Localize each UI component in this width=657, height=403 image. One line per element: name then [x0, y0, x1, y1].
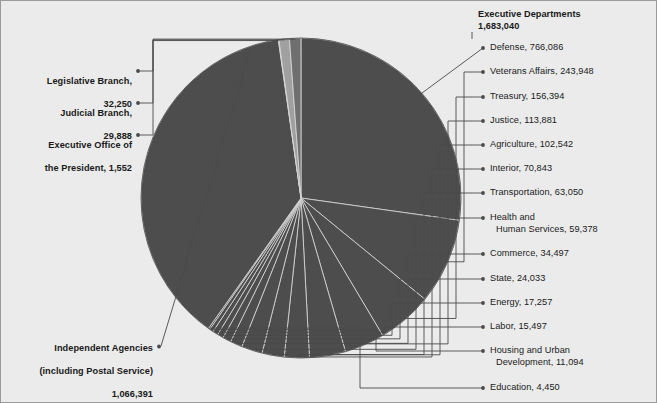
- callout-label-line2: the President, 1,552: [1, 163, 132, 175]
- group-value-executive-departments: 1,683,040: [478, 21, 519, 33]
- leader-dot: [481, 216, 485, 220]
- callout-label-interior: Interior, 70,843: [490, 163, 552, 175]
- callout-label-line1: Treasury, 156,394: [490, 91, 564, 103]
- callout-label-line1: Commerce, 34,497: [490, 248, 569, 260]
- callout-label-line1: Independent Agencies: [1, 343, 153, 355]
- callout-label-line1: Executive Office of: [1, 140, 132, 152]
- callout-label-line1: Health and: [490, 212, 598, 224]
- group-title-executive-departments: Executive Departments: [478, 9, 581, 21]
- callout-label-executive-office: Executive Office of the President, 1,552: [1, 128, 132, 186]
- leader-dot: [481, 191, 485, 195]
- group-value-text: 1,683,040: [478, 21, 519, 31]
- callout-label-line1: Labor, 15,497: [490, 321, 547, 333]
- callout-label-line1: Justice, 113,881: [490, 115, 557, 127]
- callout-label-line1: Education, 4,450: [490, 382, 560, 394]
- callout-label-line2: Development, 11,094: [490, 357, 584, 369]
- leader-dot: [136, 133, 140, 137]
- callout-label-hhs: Health andHuman Services, 59,378: [490, 212, 598, 235]
- callout-label-line1: Agriculture, 102,542: [490, 139, 573, 151]
- callout-label-line1: Veterans Affairs, 243,948: [490, 66, 594, 78]
- callout-label-transportation: Transportation, 63,050: [490, 187, 583, 199]
- leader-dot: [481, 46, 485, 50]
- callout-label-line1: Transportation, 63,050: [490, 187, 583, 199]
- callout-label-line1: Housing and Urban: [490, 345, 584, 357]
- callout-label-commerce: Commerce, 34,497: [490, 248, 569, 260]
- pie-slices-group: [141, 38, 461, 358]
- callout-label-line1: Energy, 17,257: [490, 297, 552, 309]
- callout-label-labor: Labor, 15,497: [490, 321, 547, 333]
- leader-dot: [157, 345, 161, 349]
- leader-dot: [481, 386, 485, 390]
- callout-label-energy: Energy, 17,257: [490, 297, 552, 309]
- callout-label-veterans: Veterans Affairs, 243,948: [490, 66, 594, 78]
- callout-label-line1: Judicial Branch,: [1, 108, 132, 120]
- leader-dot: [136, 101, 140, 105]
- callout-label-line1: Interior, 70,843: [490, 163, 552, 175]
- callout-label-justice: Justice, 113,881: [490, 115, 557, 127]
- callout-label-line3: 1,066,391: [1, 389, 153, 401]
- callout-label-defense: Defense, 766,086: [490, 42, 563, 54]
- callout-label-treasury: Treasury, 156,394: [490, 91, 564, 103]
- leader-dot: [481, 143, 485, 147]
- leader-dot: [481, 95, 485, 99]
- callout-label-line2: (including Postal Service): [1, 366, 153, 378]
- callout-label-hud: Housing and UrbanDevelopment, 11,094: [490, 345, 584, 368]
- pie-chart-figure: Executive Departments 1,683,040 Legislat…: [0, 0, 657, 403]
- group-title-text: Executive Departments: [478, 9, 581, 19]
- callout-label-education: Education, 4,450: [490, 382, 560, 394]
- callout-label-line1: Defense, 766,086: [490, 42, 563, 54]
- callout-label-line2: Human Services, 59,378: [490, 224, 598, 236]
- leader-dot: [481, 301, 485, 305]
- callout-label-line1: State, 24,033: [490, 273, 545, 285]
- leader-line-defense: [421, 48, 483, 94]
- leader-dot: [481, 252, 485, 256]
- callout-label-agriculture: Agriculture, 102,542: [490, 139, 573, 151]
- callout-label-independent-agencies: Independent Agencies (including Postal S…: [1, 331, 153, 403]
- leader-dot: [136, 69, 140, 73]
- leader-dot: [481, 119, 485, 123]
- leader-dot: [481, 349, 485, 353]
- leader-dot: [481, 325, 485, 329]
- leader-dot: [481, 70, 485, 74]
- callout-label-line1: Legislative Branch,: [1, 76, 132, 88]
- callout-label-state: State, 24,033: [490, 273, 545, 285]
- leader-dot: [481, 167, 485, 171]
- leader-dot: [481, 277, 485, 281]
